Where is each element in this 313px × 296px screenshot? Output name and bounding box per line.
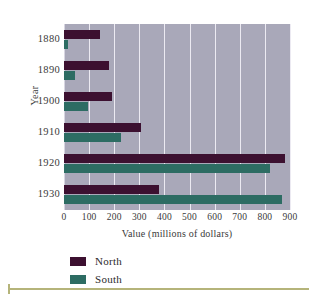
- bar-row: [64, 86, 290, 117]
- bar-north-1880: [64, 30, 100, 39]
- bar-north-1920: [64, 154, 285, 163]
- legend-item-north: North: [70, 252, 122, 270]
- x-tick-label-300: 300: [132, 212, 147, 222]
- plot-area: [64, 24, 290, 210]
- bar-north-1910: [64, 123, 141, 132]
- y-tick-label-1890: 1890: [38, 64, 60, 75]
- legend-item-south: South: [70, 270, 122, 288]
- y-tick-label-1900: 1900: [38, 95, 60, 106]
- bar-north-1890: [64, 61, 109, 70]
- x-tick-label-800: 800: [257, 212, 272, 222]
- bar-row: [64, 55, 290, 86]
- bar-south-1920: [64, 164, 270, 173]
- bar-row: [64, 117, 290, 148]
- bar-row: [64, 179, 290, 210]
- x-tick-label-200: 200: [107, 212, 122, 222]
- y-tick-label-1910: 1910: [38, 126, 60, 137]
- legend-label-north: North: [95, 255, 122, 267]
- x-tick-label-0: 0: [62, 212, 67, 222]
- y-tick-label-1920: 1920: [38, 157, 60, 168]
- y-tick-label-1930: 1930: [38, 188, 60, 199]
- bar-rows: [64, 24, 290, 210]
- x-tick-label-400: 400: [157, 212, 172, 222]
- gridline: [290, 24, 291, 210]
- bar-south-1910: [64, 133, 121, 142]
- x-tick-label-700: 700: [232, 212, 247, 222]
- bar-north-1930: [64, 185, 159, 194]
- page-rule-bottom: [8, 288, 309, 290]
- legend-swatch-south: [70, 275, 86, 284]
- bar-south-1880: [64, 40, 68, 49]
- x-tick-label-500: 500: [182, 212, 197, 222]
- x-tick-label-900: 900: [283, 212, 298, 222]
- bar-south-1900: [64, 102, 88, 111]
- page-rule-left: [8, 284, 10, 294]
- x-axis-tick-labels: 0100200300400500600700800900: [64, 212, 290, 226]
- x-axis-title: Value (millions of dollars): [64, 228, 290, 239]
- bar-north-1900: [64, 92, 112, 101]
- legend-label-south: South: [95, 273, 122, 285]
- chart-legend: NorthSouth: [70, 252, 122, 288]
- y-tick-label-1880: 1880: [38, 33, 60, 44]
- bar-row: [64, 24, 290, 55]
- bar-chart-figure: Year 188018901900191019201930 0100200300…: [0, 0, 313, 296]
- bar-row: [64, 148, 290, 179]
- legend-swatch-north: [70, 257, 86, 266]
- y-axis-tick-labels: 188018901900191019201930: [24, 24, 62, 210]
- bar-south-1890: [64, 71, 75, 80]
- x-tick-label-100: 100: [82, 212, 97, 222]
- x-tick-label-600: 600: [207, 212, 222, 222]
- bar-south-1930: [64, 195, 282, 204]
